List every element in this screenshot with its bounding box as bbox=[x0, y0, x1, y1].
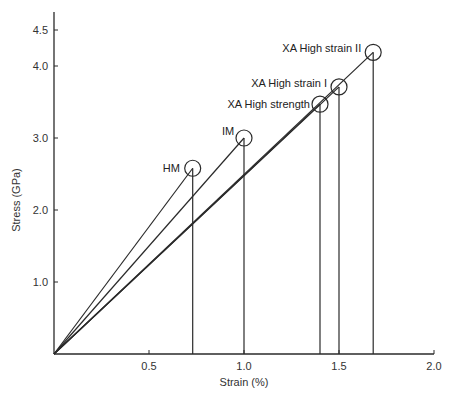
point-label: XA High strain I bbox=[251, 77, 327, 89]
series-line bbox=[54, 138, 244, 354]
point-label: HM bbox=[163, 162, 180, 174]
axes: 0.51.01.52.01.02.03.04.04.5 bbox=[33, 12, 442, 372]
stress-strain-chart: 0.51.01.52.01.02.03.04.04.5 HMIMXA High … bbox=[0, 0, 452, 395]
y-tick-label: 3.0 bbox=[33, 132, 48, 144]
point-label: XA High strain II bbox=[282, 42, 361, 54]
y-axis-title: Stress (GPa) bbox=[10, 168, 22, 232]
y-tick-label: 1.0 bbox=[33, 276, 48, 288]
y-tick-label: 4.0 bbox=[33, 60, 48, 72]
point-label: XA High strength bbox=[227, 98, 310, 110]
series-line bbox=[54, 168, 193, 354]
x-tick-label: 1.0 bbox=[236, 360, 251, 372]
y-tick-label: 2.0 bbox=[33, 204, 48, 216]
y-tick-label: 4.5 bbox=[33, 24, 48, 36]
point-label: IM bbox=[222, 125, 234, 137]
x-axis-title: Strain (%) bbox=[220, 376, 269, 388]
series-line bbox=[54, 52, 373, 354]
x-tick-label: 0.5 bbox=[141, 360, 156, 372]
x-tick-label: 1.5 bbox=[331, 360, 346, 372]
plot-area: HMIMXA High strengthXA High strain IXA H… bbox=[54, 42, 381, 354]
x-tick-label: 2.0 bbox=[426, 360, 441, 372]
